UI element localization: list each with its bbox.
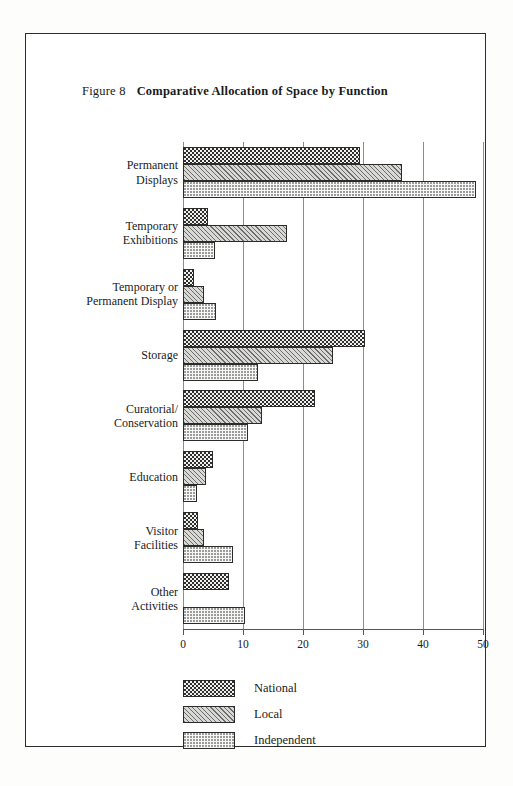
category-label-line: Storage — [141, 348, 178, 362]
category-label-line: Exhibitions — [123, 233, 178, 247]
x-tick-40 — [423, 629, 424, 635]
bar-independent — [183, 546, 233, 563]
bar-local — [183, 347, 333, 364]
bar-group: PermanentDisplays — [183, 147, 483, 198]
category-label: TemporaryExhibitions — [123, 219, 178, 247]
bar-independent — [183, 485, 197, 502]
bar-group: VisitorFacilities — [183, 512, 483, 563]
category-label-line: Curatorial/ — [114, 402, 178, 416]
bar-independent — [183, 424, 248, 441]
category-label: Curatorial/Conservation — [114, 402, 178, 430]
category-label-line: Education — [129, 470, 178, 484]
category-label: Temporary orPermanent Display — [86, 280, 178, 308]
x-tick-label-50: 50 — [477, 638, 489, 650]
bar-independent — [183, 607, 245, 624]
legend-item: Independent — [183, 727, 316, 753]
category-label: OtherActivities — [131, 584, 178, 612]
bar-independent — [183, 242, 215, 259]
legend-item: National — [183, 675, 316, 701]
figure-page: Figure 8Comparative Allocation of Space … — [0, 0, 513, 786]
gridline-50 — [483, 142, 484, 629]
x-tick-10 — [243, 629, 244, 635]
chart-plot-area: 01020304050 PermanentDisplaysTemporaryEx… — [183, 142, 483, 629]
bar-group: Curatorial/Conservation — [183, 390, 483, 441]
x-tick-label-30: 30 — [357, 638, 369, 650]
x-tick-label-10: 10 — [237, 638, 249, 650]
category-label-line: Permanent — [127, 158, 178, 172]
x-tick-label-0: 0 — [180, 638, 186, 650]
bar-local — [183, 468, 206, 485]
bar-group: Storage — [183, 330, 483, 381]
category-label: Education — [129, 470, 178, 484]
bar-national — [183, 147, 360, 164]
bar-group: TemporaryExhibitions — [183, 208, 483, 259]
bar-group: Education — [183, 451, 483, 502]
x-tick-0 — [183, 629, 184, 635]
legend-swatch-national — [183, 680, 235, 697]
category-label-line: Activities — [131, 599, 178, 613]
legend-label: Local — [254, 707, 282, 722]
category-label-line: Displays — [127, 172, 178, 186]
chart-legend: NationalLocalIndependent — [183, 675, 316, 753]
category-label-line: Conservation — [114, 416, 178, 430]
bar-local — [183, 164, 402, 181]
category-label-line: Facilities — [134, 538, 178, 552]
bar-local — [183, 225, 287, 242]
bar-national — [183, 512, 198, 529]
category-label: VisitorFacilities — [134, 524, 178, 552]
category-label: PermanentDisplays — [127, 158, 178, 186]
bar-national — [183, 208, 208, 225]
category-label-line: Temporary — [123, 219, 178, 233]
x-tick-50 — [483, 629, 484, 635]
category-label-line: Permanent Display — [86, 294, 178, 308]
legend-item: Local — [183, 701, 316, 727]
legend-label: National — [254, 681, 297, 696]
bar-national — [183, 390, 315, 407]
bar-independent — [183, 303, 216, 320]
bar-national — [183, 451, 213, 468]
legend-swatch-local — [183, 706, 235, 723]
category-label: Storage — [141, 348, 178, 362]
bar-national — [183, 330, 365, 347]
category-label-line: Visitor — [134, 524, 178, 538]
bar-group: OtherActivities — [183, 573, 483, 624]
bar-local — [183, 286, 204, 303]
bar-national — [183, 269, 194, 286]
legend-label: Independent — [254, 733, 316, 748]
bar-local — [183, 529, 204, 546]
bar-local — [183, 407, 262, 424]
category-label-line: Temporary or — [86, 280, 178, 294]
figure-number: Figure 8 — [82, 84, 126, 98]
x-axis-line — [183, 629, 483, 630]
figure-frame: Figure 8Comparative Allocation of Space … — [25, 33, 486, 747]
page-title: Figure 8Comparative Allocation of Space … — [82, 84, 388, 99]
bar-national — [183, 573, 229, 590]
x-tick-label-40: 40 — [417, 638, 429, 650]
x-tick-20 — [303, 629, 304, 635]
bar-independent — [183, 181, 476, 198]
category-label-line: Other — [131, 584, 178, 598]
legend-swatch-independent — [183, 732, 235, 749]
x-tick-label-20: 20 — [297, 638, 309, 650]
bar-group: Temporary orPermanent Display — [183, 269, 483, 320]
x-tick-30 — [363, 629, 364, 635]
figure-title-text: Comparative Allocation of Space by Funct… — [137, 84, 388, 98]
bar-independent — [183, 364, 258, 381]
